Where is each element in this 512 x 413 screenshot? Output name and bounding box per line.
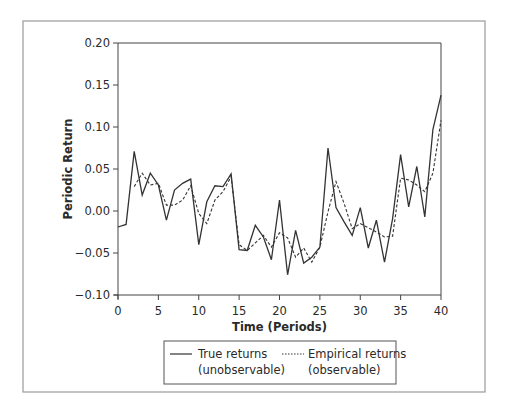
legend-true-label-1: True returns <box>197 347 267 361</box>
plot-area: −0.10−0.050.000.050.100.150.20 051015202… <box>75 36 449 318</box>
x-tick-label: 0 <box>114 304 121 318</box>
x-tick-label: 10 <box>191 304 206 318</box>
y-tick-label: 0.20 <box>84 36 110 50</box>
x-ticks: 0510152025303540 <box>114 295 448 318</box>
legend-true-label-2: (unobservable) <box>198 363 285 377</box>
x-axis-title: Time (Periods) <box>232 320 327 334</box>
x-tick-label: 30 <box>353 304 368 318</box>
y-tick-label: 0.10 <box>84 120 110 134</box>
y-tick-label: 0.00 <box>84 204 110 218</box>
y-axis-title: Periodic Return <box>61 119 75 220</box>
empirical-returns-line <box>134 120 441 262</box>
x-tick-label: 35 <box>393 304 408 318</box>
y-tick-label: −0.05 <box>75 246 110 260</box>
y-tick-label: 0.05 <box>84 162 110 176</box>
legend-empirical-label-1: Empirical returns <box>308 347 406 361</box>
legend-empirical-label-2: (observable) <box>308 363 381 377</box>
chart: −0.10−0.050.000.050.100.150.20 051015202… <box>0 0 512 413</box>
true-returns-line <box>118 95 441 275</box>
y-tick-label: −0.10 <box>75 288 110 302</box>
series-lines <box>118 95 441 275</box>
x-tick-label: 40 <box>434 304 449 318</box>
y-tick-label: 0.15 <box>84 78 110 92</box>
y-ticks: −0.10−0.050.000.050.100.150.20 <box>75 36 118 302</box>
x-tick-label: 20 <box>272 304 287 318</box>
x-tick-label: 25 <box>313 304 328 318</box>
x-tick-label: 5 <box>155 304 162 318</box>
legend: True returns (unobservable) Empirical re… <box>164 341 406 384</box>
x-tick-label: 15 <box>232 304 247 318</box>
